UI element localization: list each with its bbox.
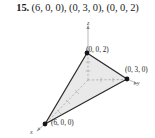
problem-points-list: (6, 0, 0), (0, 3, 0), (0, 0, 2)	[32, 2, 139, 13]
vertex-label-y-intercept: (0, 3, 0)	[125, 66, 148, 74]
figure-root: 15. (6, 0, 0), (0, 3, 0), (0, 0, 2)	[0, 0, 155, 138]
x-axis-label: x	[30, 128, 33, 135]
triangle-figure: (0, 0, 2) (0, 3, 0) (6, 0, 0) z y x	[0, 16, 155, 138]
y-axis-label: y	[137, 79, 140, 86]
triangle-plane	[45, 53, 127, 124]
vertex-dot-y	[125, 77, 130, 82]
problem-header: 15. (6, 0, 0), (0, 3, 0), (0, 0, 2)	[0, 1, 155, 14]
z-axis-label: z	[87, 19, 89, 26]
vertex-label-x-intercept: (6, 0, 0)	[51, 119, 74, 127]
coordinate-triangle-svg	[0, 16, 155, 138]
problem-number: 15.	[16, 2, 29, 13]
x-axis-arrowhead	[37, 127, 41, 132]
vertex-dot-x	[43, 122, 48, 127]
vertex-label-z-intercept: (0, 0, 2)	[86, 46, 109, 54]
